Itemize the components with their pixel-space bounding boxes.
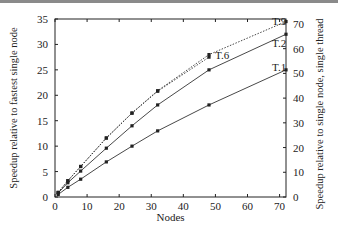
data-marker <box>79 165 82 168</box>
y-tick-label: 30 <box>37 38 49 50</box>
data-marker <box>105 147 108 150</box>
y-tick-label: 10 <box>37 140 49 152</box>
data-marker <box>130 124 133 127</box>
data-marker <box>156 129 159 132</box>
x-axis-label: Nodes <box>156 211 184 223</box>
y-right-tick-label: 50 <box>293 67 305 79</box>
data-marker <box>57 191 60 194</box>
data-marker <box>79 169 82 172</box>
data-marker <box>156 89 159 92</box>
speedup-chart: 0102030405060700510152025303501020304050… <box>0 0 338 235</box>
x-tick-label: 70 <box>274 200 286 212</box>
y-tick-label: 35 <box>37 13 49 25</box>
y-right-tick-label: 20 <box>293 142 305 154</box>
y-right-tick-label: 70 <box>293 18 305 30</box>
x-tick-label: 20 <box>114 200 126 212</box>
plot-frame <box>55 19 286 197</box>
data-marker <box>105 160 108 163</box>
series-line-T1 <box>58 70 286 195</box>
y-tick-label: 25 <box>37 64 49 76</box>
data-marker <box>66 179 69 182</box>
data-marker <box>66 186 69 189</box>
y-right-tick-label: 40 <box>293 92 305 104</box>
data-marker <box>207 53 210 56</box>
x-tick-label: 0 <box>52 200 58 212</box>
y-right-tick-label: 0 <box>293 191 299 203</box>
x-tick-label: 10 <box>82 200 94 212</box>
series-label: T.2 <box>272 37 286 49</box>
series-label: T.9 <box>272 15 287 27</box>
data-marker <box>105 136 108 139</box>
data-marker <box>130 145 133 148</box>
y-right-tick-label: 30 <box>293 117 305 129</box>
y-tick-label: 0 <box>43 191 49 203</box>
y-right-axis-label: Speedup relative to single node, single … <box>314 18 325 210</box>
y-axis-label: Speedup relative to fastest single node <box>8 27 19 189</box>
series-line-T9 <box>58 22 286 193</box>
y-right-tick-label: 60 <box>293 43 305 55</box>
data-marker <box>207 103 210 106</box>
x-tick-label: 60 <box>242 200 254 212</box>
y-right-tick-label: 10 <box>293 166 305 178</box>
data-marker <box>79 178 82 181</box>
y-tick-label: 5 <box>43 166 49 178</box>
data-marker <box>130 111 133 114</box>
y-tick-label: 20 <box>37 89 49 101</box>
series-label: T.6 <box>215 49 230 61</box>
data-marker <box>207 68 210 71</box>
x-tick-label: 50 <box>210 200 222 212</box>
series-label: T.1 <box>272 61 286 73</box>
series-line-T2 <box>58 34 286 193</box>
y-tick-label: 15 <box>37 115 49 127</box>
data-marker <box>284 33 287 36</box>
data-marker <box>156 103 159 106</box>
